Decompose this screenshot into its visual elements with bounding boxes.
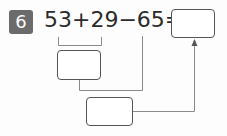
connector-lines [0, 0, 227, 136]
connector-step1-to-65 [80, 36, 143, 91]
arrow-up-icon [192, 39, 198, 46]
bracket-53-29 [59, 37, 102, 46]
worksheet-problem: 6 53+29−65= [0, 0, 227, 136]
